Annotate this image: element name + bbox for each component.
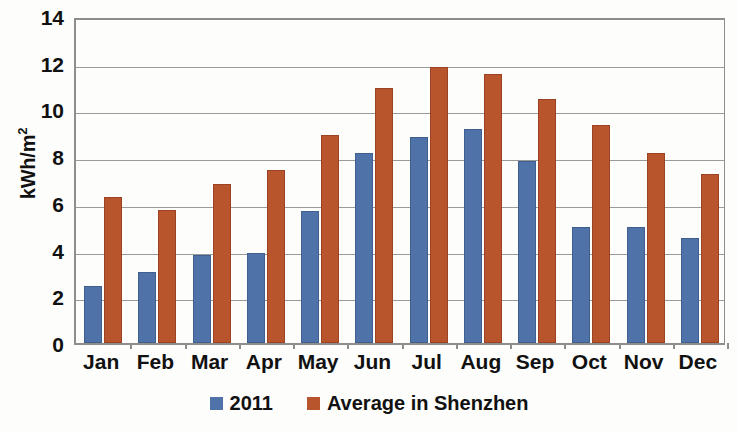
x-axis-tick-labels: JanFebMarAprMayJunJulAugSepOctNovDec (74, 350, 725, 382)
bar-feb-series-average (158, 210, 176, 343)
bar-group (402, 20, 456, 343)
bar-apr-series-average (267, 170, 285, 343)
bars-layer (76, 20, 724, 343)
bar-jan-series-2011 (84, 286, 102, 343)
solar-irradiation-bar-chart: kWh/m2 14121086420 JanFebMarAprMayJunJul… (0, 0, 738, 431)
bar-aug-series-average (484, 74, 502, 343)
x-tick-mark (727, 343, 729, 349)
bar-dec-series-2011 (681, 238, 699, 343)
y-tick-label: 14 (14, 6, 64, 30)
bar-jan-series-average (104, 197, 122, 343)
x-tick-mark (402, 343, 404, 349)
x-tick-mark (456, 343, 458, 349)
bar-group (564, 20, 618, 343)
bar-oct-series-average (592, 125, 610, 343)
bar-jul-series-2011 (410, 137, 428, 343)
y-axis-title-exponent: 2 (15, 128, 30, 135)
bar-group (510, 20, 564, 343)
bar-nov-series-average (647, 153, 665, 343)
x-tick-mark (510, 343, 512, 349)
y-axis-title-base: kWh/m (17, 135, 39, 200)
bar-group (239, 20, 293, 343)
bar-may-series-average (321, 135, 339, 343)
bar-jun-series-average (375, 88, 393, 343)
legend-swatch-icon (307, 397, 320, 410)
bar-group (185, 20, 239, 343)
bar-group (76, 20, 130, 343)
bar-oct-series-2011 (572, 227, 590, 343)
legend-label: Average in Shenzhen (327, 392, 529, 415)
bar-group (293, 20, 347, 343)
legend-label: 2011 (230, 392, 273, 415)
x-tick-mark (619, 343, 621, 349)
bar-sep-series-average (538, 99, 556, 343)
bar-group (673, 20, 727, 343)
bar-dec-series-average (701, 174, 719, 343)
x-tick-mark (185, 343, 187, 349)
bar-group (130, 20, 184, 343)
x-tick-mark (130, 343, 132, 349)
bar-aug-series-2011 (464, 129, 482, 343)
legend-swatch-icon (210, 397, 223, 410)
legend-entry-series-2011[interactable]: 2011 (210, 392, 273, 415)
x-tick-mark (239, 343, 241, 349)
bar-group (347, 20, 401, 343)
bar-group (619, 20, 673, 343)
x-tick-mark (673, 343, 675, 349)
plot-area (74, 18, 725, 345)
bar-mar-series-2011 (193, 255, 211, 343)
bar-group (456, 20, 510, 343)
x-tick-mark (347, 343, 349, 349)
bar-may-series-2011 (301, 211, 319, 343)
x-tick-mark (293, 343, 295, 349)
bar-apr-series-2011 (247, 253, 265, 343)
x-tick-label-dec: Dec (663, 350, 733, 374)
legend-entry-series-average[interactable]: Average in Shenzhen (307, 392, 529, 415)
x-tick-mark (564, 343, 566, 349)
bar-jul-series-average (430, 67, 448, 343)
bar-jun-series-2011 (355, 153, 373, 343)
y-axis-title: kWh/m2 (17, 64, 40, 264)
bar-feb-series-2011 (138, 272, 156, 343)
bar-sep-series-2011 (518, 161, 536, 343)
bar-mar-series-average (213, 184, 231, 343)
y-tick-label: 0 (14, 333, 64, 357)
y-tick-label: 2 (14, 286, 64, 310)
chart-legend: 2011Average in Shenzhen (0, 392, 738, 415)
bar-nov-series-2011 (627, 227, 645, 343)
